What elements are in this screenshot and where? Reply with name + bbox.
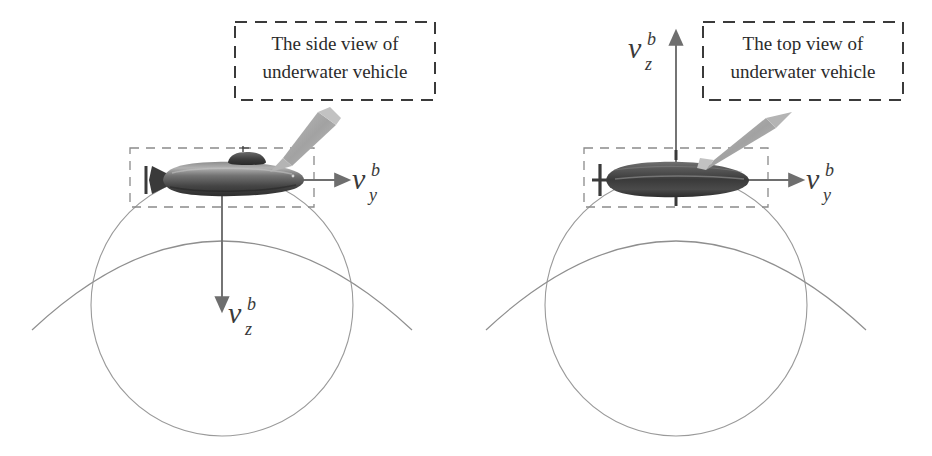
figure-root: The side view of underwater vehicle v b …	[0, 0, 932, 456]
vz-subscript: z	[644, 54, 652, 74]
panel-side-view: The side view of underwater vehicle v b …	[32, 22, 435, 436]
vy-superscript: b	[371, 160, 380, 180]
vz-superscript: b	[647, 29, 656, 49]
diagram-canvas: The side view of underwater vehicle v b …	[0, 0, 932, 456]
vehicle-hull	[606, 162, 749, 197]
velocity-vector-vy-label: v b y	[806, 160, 834, 205]
vy-superscript: b	[825, 160, 834, 180]
callout-pointer-arrow	[270, 107, 341, 172]
vy-subscript: y	[821, 185, 831, 205]
callout-line-2: underwater vehicle	[262, 61, 407, 82]
underwater-vehicle-side	[146, 146, 304, 196]
panel-top-view: The top view of underwater vehicle v b y…	[486, 22, 903, 436]
velocity-vector-vz-label: v b z	[628, 29, 656, 74]
vy-symbol: v	[352, 162, 366, 195]
underwater-vehicle-top	[592, 150, 749, 206]
conning-tower	[228, 152, 266, 165]
vy-symbol: v	[806, 162, 820, 195]
vz-symbol: v	[628, 31, 642, 64]
callout-line-2: underwater vehicle	[730, 61, 875, 82]
vy-subscript: y	[367, 185, 377, 205]
sonar-beam-arc	[486, 241, 866, 330]
velocity-vector-vz-label: v b z	[228, 294, 256, 339]
vz-superscript: b	[247, 294, 256, 314]
callout-line-1: The top view of	[743, 33, 865, 54]
sonar-footprint-circle	[545, 174, 807, 436]
velocity-vector-vy-label: v b y	[352, 160, 380, 205]
vz-symbol: v	[228, 296, 242, 329]
bow-marking	[292, 175, 295, 178]
callout-pointer-arrow	[697, 112, 792, 170]
callout-line-1: The side view of	[271, 33, 399, 54]
vz-subscript: z	[244, 319, 252, 339]
